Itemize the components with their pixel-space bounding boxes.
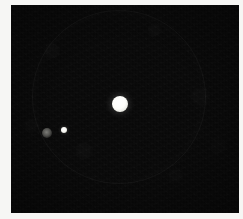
sky-object-dim-diffuse-blob[interactable] <box>42 128 52 138</box>
astronomical-image-frame[interactable] <box>11 5 239 213</box>
vignette-overlay <box>11 5 239 213</box>
sensor-noise-blotches <box>11 5 239 213</box>
sky-object-small-bright-point[interactable] <box>61 127 67 133</box>
faint-ring-artifact <box>32 10 206 184</box>
sky-object-bright-disk[interactable] <box>112 96 128 112</box>
screenshot-root <box>0 0 243 219</box>
sensor-noise-layer <box>11 5 239 213</box>
